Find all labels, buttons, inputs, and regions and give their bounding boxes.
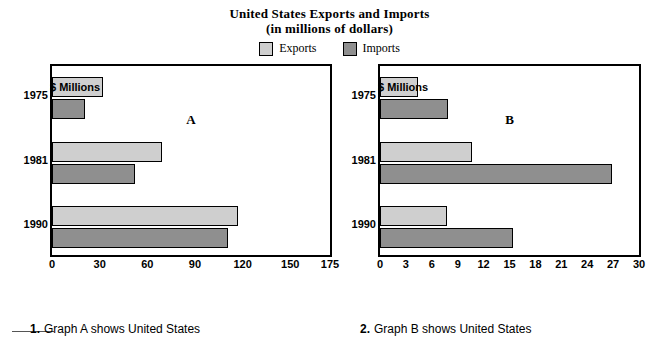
- x-tick-a-30: 30: [94, 258, 106, 270]
- x-tick-a-175: 175: [321, 258, 339, 270]
- x-tick-b-12: 12: [477, 258, 489, 270]
- x-tick-a-150: 150: [281, 258, 299, 270]
- x-tick-b-0: 0: [377, 258, 383, 270]
- legend-item-exports: Exports: [259, 41, 316, 56]
- bar-a-1990-exports: [52, 206, 238, 226]
- chart-legend: Exports Imports: [0, 41, 659, 56]
- category-label-b-1981: 1981: [345, 154, 376, 166]
- x-tick-a-0: 0: [49, 258, 55, 270]
- chart-title-block: United States Exports and Imports (in mi…: [0, 0, 659, 36]
- category-label-a-1990: 1990: [12, 218, 48, 230]
- category-label-a-1975: 1975: [12, 89, 48, 101]
- category-label-b-1990: 1990: [345, 218, 376, 230]
- chart-a-caption: A: [50, 112, 332, 128]
- question-2: 2.Graph B shows United States: [360, 322, 640, 336]
- legend-label-exports: Exports: [279, 41, 316, 56]
- category-label-b-1975: 1975: [345, 89, 376, 101]
- x-tick-b-24: 24: [581, 258, 593, 270]
- bar-a-1981-exports: [52, 142, 162, 162]
- chart-a-x-axis-label: $ Millions: [50, 81, 100, 93]
- x-tick-b-9: 9: [455, 258, 461, 270]
- x-tick-b-6: 6: [429, 258, 435, 270]
- chart-title-line-1: United States Exports and Imports: [0, 6, 659, 21]
- chart-b: 197519811990 036912151821242730 $ Millio…: [345, 64, 645, 273]
- bar-a-1981-imports: [52, 164, 135, 184]
- chart-b-caption: B: [378, 112, 641, 128]
- question-2-number: 2.: [360, 322, 370, 336]
- bar-b-1990-exports: [380, 206, 447, 226]
- question-1-text: Graph A shows United States: [44, 322, 200, 336]
- question-1-number: 1.: [30, 322, 40, 336]
- x-tick-b-15: 15: [503, 258, 515, 270]
- x-tick-a-120: 120: [233, 258, 251, 270]
- chart-a: 197519811990 0306090120150175 $ Millions…: [12, 64, 332, 273]
- legend-swatch-exports: [259, 42, 273, 56]
- x-tick-a-60: 60: [141, 258, 153, 270]
- x-tick-b-27: 27: [607, 258, 619, 270]
- legend-label-imports: Imports: [363, 41, 400, 56]
- chart-b-x-axis-label: $ Millions: [378, 81, 428, 93]
- bar-b-1981-imports: [380, 164, 612, 184]
- question-1: 1.Graph A shows United States: [30, 322, 310, 336]
- bar-b-1981-exports: [380, 142, 472, 162]
- charts-row: 197519811990 0306090120150175 $ Millions…: [0, 64, 659, 299]
- category-label-a-1981: 1981: [12, 154, 48, 166]
- x-tick-b-30: 30: [633, 258, 645, 270]
- questions-block: 1.Graph A shows United States 2.Graph B …: [0, 322, 659, 352]
- chart-a-x-axis: 0306090120150175: [50, 257, 332, 273]
- chart-title-line-2: (in millions of dollars): [0, 21, 659, 36]
- chart-b-x-axis: 036912151821242730: [378, 257, 641, 273]
- x-tick-a-90: 90: [189, 258, 201, 270]
- bar-a-1990-imports: [52, 228, 228, 248]
- x-tick-b-3: 3: [403, 258, 409, 270]
- legend-item-imports: Imports: [343, 41, 400, 56]
- bar-b-1990-imports: [380, 228, 513, 248]
- legend-swatch-imports: [343, 42, 357, 56]
- x-tick-b-18: 18: [529, 258, 541, 270]
- question-2-text: Graph B shows United States: [374, 322, 531, 336]
- x-tick-b-21: 21: [555, 258, 567, 270]
